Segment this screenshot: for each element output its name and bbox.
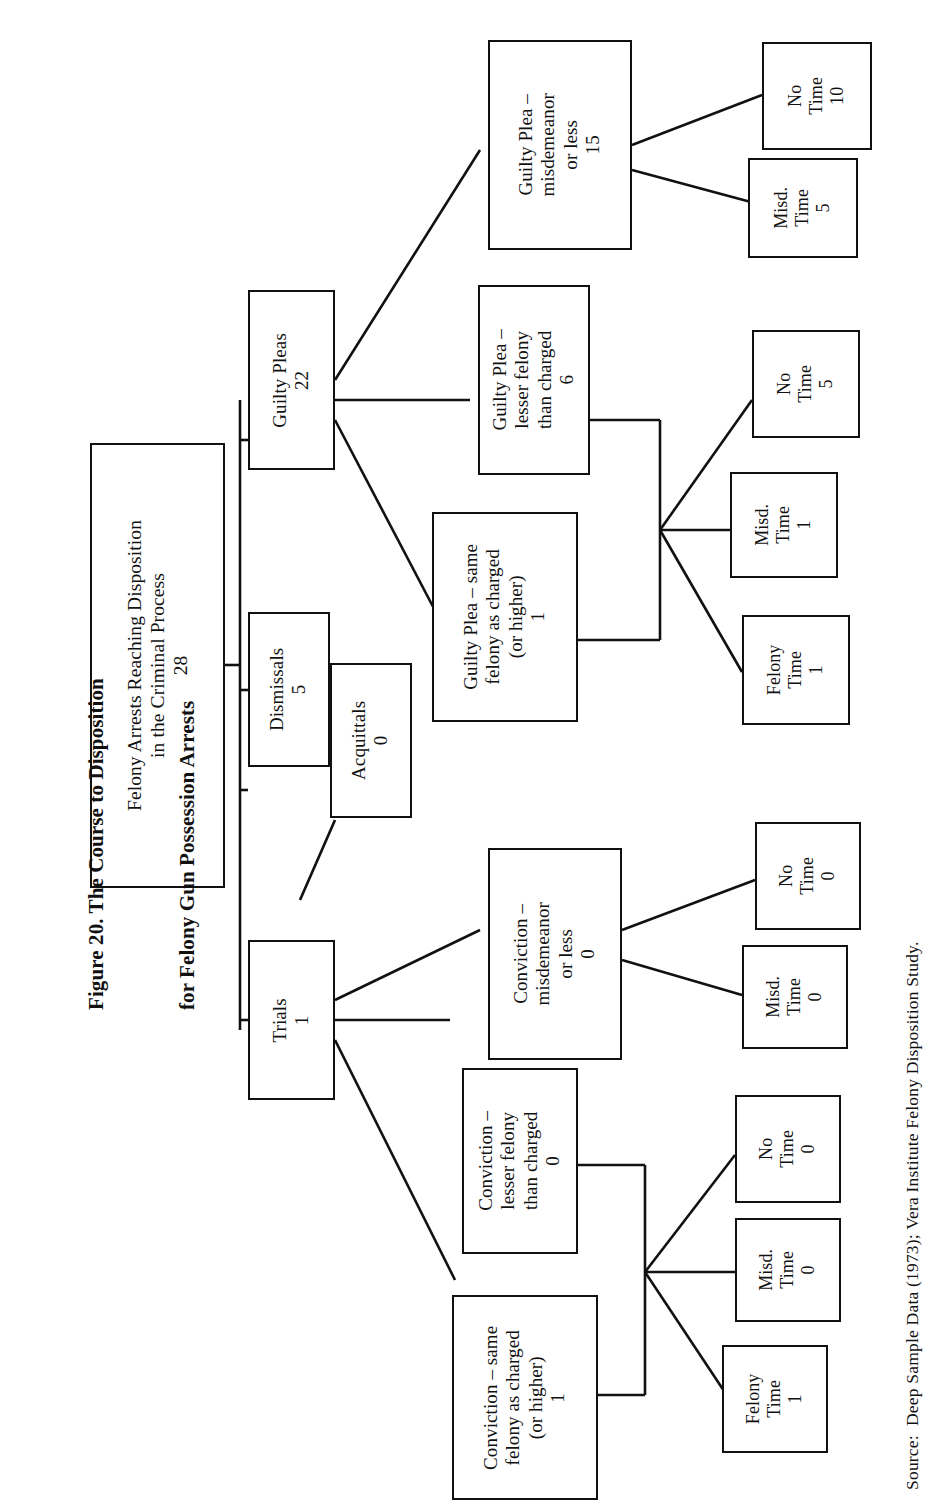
node-guilty-plea-lesser-felony[interactable]: Guilty Plea – lesser felony than charged… [478,285,590,475]
node-trials-label: Trials 1 [269,998,314,1042]
edge-cv-notime [645,1155,735,1272]
edge-cvmisd-notime [622,880,755,930]
node-gpfelony-felony-time-label: Felony Time 1 [764,645,828,696]
node-cvmisd-no-time-label: No Time 0 [776,857,840,895]
node-cvfelony-no-time-label: No Time 0 [756,1130,820,1168]
node-guilty-pleas-label: Guilty Pleas 22 [269,333,314,428]
node-gpfelony-felony-time[interactable]: Felony Time 1 [742,615,850,725]
node-guilty-plea-misdemeanor[interactable]: Guilty Plea – misdemeanor or less 15 [488,40,632,250]
node-guilty-plea-same-felony-label: Guilty Plea – same felony as charged (or… [460,544,550,690]
node-conviction-lesser-felony-label: Conviction – lesser felony than charged … [475,1111,565,1211]
node-gpfelony-misd-time-label: Misd. Time 1 [752,504,816,546]
node-cvmisd-misd-time-label: Misd. Time 0 [763,976,827,1018]
edge-gp-to-same [335,420,440,620]
edge-cvmisd-misdtime [622,960,742,995]
node-guilty-plea-same-felony[interactable]: Guilty Plea – same felony as charged (or… [432,512,578,722]
node-gpmisd-no-time-label: No Time 10 [785,77,849,115]
node-guilty-plea-lesser-felony-label: Guilty Plea – lesser felony than charged… [489,329,579,431]
node-gpfelony-no-time[interactable]: No Time 5 [752,330,860,438]
node-cvfelony-misd-time[interactable]: Misd. Time 0 [735,1218,841,1322]
node-gpmisd-misd-time-label: Misd. Time 5 [771,187,835,229]
node-acquittals[interactable]: Acquittals 0 [330,663,412,818]
node-cvfelony-misd-time-label: Misd. Time 0 [756,1249,820,1291]
node-cvfelony-no-time[interactable]: No Time 0 [735,1095,841,1203]
node-guilty-pleas[interactable]: Guilty Pleas 22 [248,290,335,470]
node-conviction-same-felony[interactable]: Conviction – same felony as charged (or … [452,1295,598,1500]
node-conviction-misdemeanor[interactable]: Conviction – misdemeanor or less 0 [488,848,622,1060]
edge-trials-to-cvsame [335,1040,455,1280]
node-gpfelony-no-time-label: No Time 5 [774,365,838,403]
figure-source: Source: Deep Sample Data (1973); Vera In… [900,942,925,1490]
node-cvfelony-felony-time-label: Felony Time 1 [743,1374,807,1425]
node-acquittals-label: Acquittals 0 [349,701,394,780]
node-conviction-lesser-felony[interactable]: Conviction – lesser felony than charged … [462,1068,578,1254]
node-gpmisd-no-time[interactable]: No Time 10 [762,42,872,150]
node-gpfelony-misd-time[interactable]: Misd. Time 1 [730,472,838,578]
edge-acquittals-tail [300,820,335,900]
figure-title-line2: for Felony Gun Possession Arrests [172,678,202,1010]
node-cvmisd-no-time[interactable]: No Time 0 [755,822,861,930]
node-trials[interactable]: Trials 1 [248,940,335,1100]
node-cvfelony-felony-time[interactable]: Felony Time 1 [722,1345,828,1453]
edge-gp-to-misd [335,150,480,380]
node-guilty-plea-misdemeanor-label: Guilty Plea – misdemeanor or less 15 [515,93,605,196]
node-conviction-misdemeanor-label: Conviction – misdemeanor or less 0 [510,902,600,1005]
node-dismissals-label: Dismissals 5 [267,648,312,731]
figure-title: Figure 20. The Course to Disposition for… [20,678,233,1010]
edge-gpmisd-misdtime [632,170,762,205]
node-cvmisd-misd-time[interactable]: Misd. Time 0 [742,945,848,1049]
edge-cv-felonytime [645,1272,730,1400]
node-conviction-same-felony-label: Conviction – same felony as charged (or … [480,1325,570,1469]
node-gpmisd-misd-time[interactable]: Misd. Time 5 [748,158,858,258]
node-dismissals[interactable]: Dismissals 5 [248,612,330,767]
edge-gpmisd-notime [632,95,762,145]
figure-title-line1: Figure 20. The Course to Disposition [81,678,111,1010]
edge-trials-to-cvmisd [335,930,480,1000]
